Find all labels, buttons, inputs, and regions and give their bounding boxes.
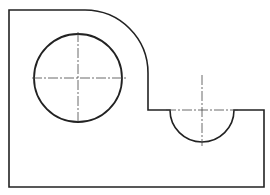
notch-centerlines — [166, 75, 238, 146]
hole-centerlines — [32, 32, 126, 124]
part-outline — [9, 10, 264, 187]
technical-drawing — [0, 0, 270, 195]
